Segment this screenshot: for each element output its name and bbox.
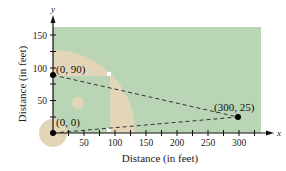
- chart: x y 50 100 150 200 250 300 50 100 150 Di…: [0, 0, 286, 171]
- point-label-300-25: (300, 25): [214, 101, 255, 114]
- y-axis-title: Distance (in feet): [16, 45, 29, 122]
- x-tick-label: 250: [201, 138, 216, 148]
- point-origin: [50, 130, 56, 136]
- x-axis-arrow-icon: [266, 131, 274, 136]
- second-base: [107, 72, 111, 76]
- pitchers-mound: [72, 97, 84, 109]
- point-label-0-90: (0, 90): [56, 63, 86, 76]
- x-tick-label: 50: [79, 138, 89, 148]
- point-label-origin: (0, 0): [56, 116, 80, 129]
- x-tick-label: 100: [108, 138, 123, 148]
- y-axis-arrow-icon: [51, 15, 56, 23]
- y-tick-label: 100: [33, 64, 48, 74]
- point-300-25: [235, 114, 241, 120]
- y-axis-letter: y: [50, 4, 55, 14]
- y-tick-label: 150: [33, 31, 48, 41]
- x-tick-label: 200: [170, 138, 185, 148]
- x-tick-label: 300: [232, 138, 247, 148]
- x-axis-letter: x: [276, 128, 281, 138]
- y-tick-label: 50: [38, 96, 48, 106]
- x-axis-title: Distance (in feet): [122, 152, 199, 165]
- x-tick-label: 150: [139, 138, 154, 148]
